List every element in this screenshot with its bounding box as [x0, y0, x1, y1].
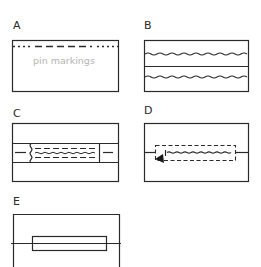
diagram-canvas: pin markings [0, 0, 261, 267]
panel-e [11, 215, 121, 267]
wavy-stitch [167, 152, 231, 153]
panel-c [13, 124, 119, 182]
wavy-stitch-bottom [145, 76, 247, 78]
wavy-stitch-top [145, 53, 247, 55]
panel-d [145, 124, 249, 182]
arrow-left-icon [155, 154, 164, 163]
wavy-stitch [35, 152, 95, 154]
panel-a: pin markings [13, 41, 119, 92]
fabric-rectangle [13, 124, 119, 182]
fabric-rectangle [13, 41, 119, 92]
wavy-left-edge [30, 144, 32, 163]
pin-markings-annotation: pin markings [33, 55, 95, 66]
panel-b [145, 41, 249, 92]
fabric-outline [14, 215, 120, 267]
